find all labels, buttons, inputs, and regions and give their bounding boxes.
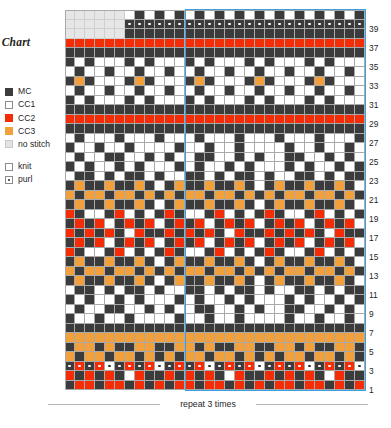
chart-cell	[185, 162, 195, 172]
chart-cell	[225, 153, 235, 163]
chart-cell	[295, 134, 305, 144]
chart-cell	[215, 362, 225, 372]
chart-cell	[155, 181, 165, 191]
chart-cell	[75, 219, 85, 229]
row-number: 27	[369, 134, 391, 153]
chart-cell	[295, 105, 305, 115]
chart-cell	[225, 238, 235, 248]
chart-cell	[165, 86, 175, 96]
chart-cell	[285, 181, 295, 191]
chart-cell	[175, 58, 185, 68]
chart-cell	[315, 333, 325, 343]
chart-cell	[95, 96, 105, 106]
chart-cell	[355, 219, 365, 229]
chart-cell	[105, 143, 115, 153]
chart-cell	[95, 105, 105, 115]
chart-cell	[105, 333, 115, 343]
chart-cell	[75, 105, 85, 115]
chart-cell	[205, 381, 215, 391]
chart-row	[65, 295, 365, 305]
chart-cell	[155, 343, 165, 353]
chart-cell	[75, 29, 85, 39]
chart-cell	[275, 20, 285, 30]
chart-cell	[225, 191, 235, 201]
chart-cell	[325, 124, 335, 134]
chart-cell	[335, 124, 345, 134]
chart-cell	[295, 257, 305, 267]
chart-cell	[155, 305, 165, 315]
chart-cell	[65, 210, 75, 220]
chart-cell	[85, 238, 95, 248]
chart-cell	[145, 381, 155, 391]
chart-cell	[335, 39, 345, 49]
chart-cell	[255, 58, 265, 68]
chart-cell	[285, 39, 295, 49]
chart-row	[65, 352, 365, 362]
chart-cell	[285, 67, 295, 77]
chart-cell	[85, 362, 95, 372]
chart-cell	[215, 124, 225, 134]
chart-cell	[285, 219, 295, 229]
chart-cell	[315, 191, 325, 201]
chart-row	[65, 162, 365, 172]
chart-cell	[165, 362, 175, 372]
chart-cell	[345, 172, 355, 182]
chart-row	[65, 210, 365, 220]
chart-cell	[125, 305, 135, 315]
chart-cell	[195, 305, 205, 315]
chart-cell	[245, 105, 255, 115]
chart-cell	[165, 229, 175, 239]
chart-cell	[95, 115, 105, 125]
chart-cell	[295, 248, 305, 258]
legend-label: purl	[18, 175, 32, 184]
chart-cell	[125, 39, 135, 49]
chart-cell	[165, 343, 175, 353]
chart-cell	[105, 105, 115, 115]
chart-cell	[165, 352, 175, 362]
row-number: 7	[369, 324, 391, 343]
chart-cell	[355, 286, 365, 296]
chart-cell	[185, 115, 195, 125]
chart-cell	[105, 172, 115, 182]
chart-cell	[115, 67, 125, 77]
chart-cell	[175, 162, 185, 172]
chart-cell	[295, 362, 305, 372]
chart-cell	[255, 96, 265, 106]
chart-cell	[305, 58, 315, 68]
chart-cell	[195, 257, 205, 267]
chart-cell	[95, 67, 105, 77]
chart-cell	[265, 324, 275, 334]
chart-row	[65, 58, 365, 68]
chart-cell	[215, 20, 225, 30]
chart-cell	[205, 191, 215, 201]
chart-cell	[265, 257, 275, 267]
chart-cell	[105, 200, 115, 210]
chart-cell	[305, 124, 315, 134]
chart-cell	[165, 276, 175, 286]
chart-cell	[275, 162, 285, 172]
chart-cell	[255, 276, 265, 286]
chart-cell	[145, 200, 155, 210]
chart-cell	[325, 67, 335, 77]
chart-cell	[205, 333, 215, 343]
chart-cell	[275, 248, 285, 258]
chart-cell	[335, 257, 345, 267]
chart-cell	[205, 238, 215, 248]
chart-cell	[235, 276, 245, 286]
chart-cell	[165, 58, 175, 68]
chart-cell	[195, 248, 205, 258]
chart-cell	[335, 295, 345, 305]
chart-cell	[305, 105, 315, 115]
chart-cell	[85, 124, 95, 134]
chart-cell	[275, 105, 285, 115]
legend-list: MCCC1CC2CC3no stitchknitpurl	[5, 85, 63, 186]
chart-cell	[85, 162, 95, 172]
chart-cell	[235, 267, 245, 277]
chart-cell	[295, 29, 305, 39]
chart-cell	[125, 162, 135, 172]
chart-cell	[145, 67, 155, 77]
chart-cell	[155, 238, 165, 248]
chart-cell	[335, 10, 345, 20]
chart-cell	[255, 172, 265, 182]
chart-cell	[355, 238, 365, 248]
